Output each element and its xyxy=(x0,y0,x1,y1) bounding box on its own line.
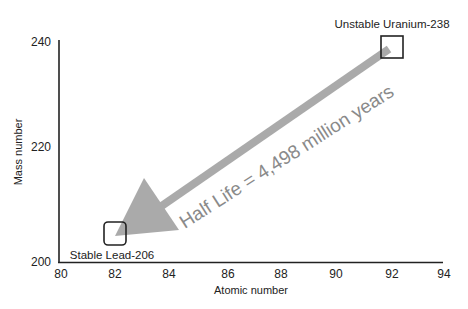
x-tick-90: 90 xyxy=(329,267,343,281)
decay-arrow-head xyxy=(115,178,179,236)
x-tick-86: 86 xyxy=(221,267,235,281)
x-tick-84: 84 xyxy=(162,267,176,281)
x-tick-82: 82 xyxy=(108,267,122,281)
y-tick-220: 220 xyxy=(31,140,51,154)
x-tick-88: 88 xyxy=(274,267,288,281)
chart: 240 220 200 80 82 84 86 88 90 92 94 Atom… xyxy=(0,0,468,309)
x-tick-92: 92 xyxy=(385,267,399,281)
x-axis-label: Atomic number xyxy=(214,284,288,296)
y-axis-label: Mass number xyxy=(12,118,24,185)
y-tick-240: 240 xyxy=(31,35,51,49)
decay-arrow-shaft xyxy=(150,49,389,214)
half-life-label: Half Life = 4,498 million years xyxy=(176,81,398,233)
x-tick-94: 94 xyxy=(437,267,451,281)
lead-206-label: Stable Lead-206 xyxy=(70,249,154,261)
y-tick-200: 200 xyxy=(31,255,51,269)
cut-off-caption xyxy=(26,299,446,309)
x-tick-80: 80 xyxy=(54,267,68,281)
uranium-238-label: Unstable Uranium-238 xyxy=(334,18,449,30)
